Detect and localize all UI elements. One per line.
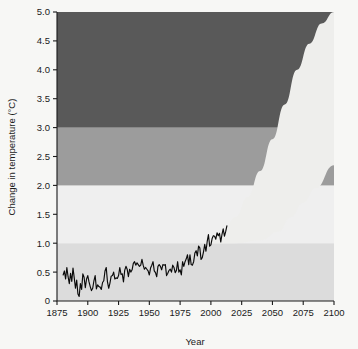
x-tick-label: 2000 — [200, 307, 221, 318]
y-tick-label: 1.0 — [37, 238, 50, 249]
y-tick-label: 5.0 — [37, 6, 50, 17]
x-tick-label: 1950 — [139, 307, 160, 318]
x-tick-label: 1900 — [77, 307, 98, 318]
y-tick-label: 4.5 — [37, 35, 50, 46]
x-axis-title: Year — [185, 336, 204, 347]
climate-projection-chart: 00.51.01.52.02.53.03.54.04.55.0187519001… — [0, 0, 358, 349]
x-tick-label: 1925 — [108, 307, 129, 318]
y-tick-label: 1.5 — [37, 209, 50, 220]
x-tick-label: 2075 — [293, 307, 314, 318]
x-tick-label: 1975 — [170, 307, 191, 318]
x-tick-label: 1875 — [46, 307, 67, 318]
y-tick-label: 2.0 — [37, 180, 50, 191]
x-tick-label: 2100 — [323, 307, 344, 318]
x-tick-label: 2025 — [231, 307, 252, 318]
y-tick-label: 0 — [45, 295, 50, 306]
y-tick-label: 4.0 — [37, 64, 50, 75]
y-tick-label: 3.0 — [37, 122, 50, 133]
chart-canvas: 00.51.01.52.02.53.03.54.04.55.0187519001… — [0, 0, 358, 349]
x-tick-label: 2050 — [262, 307, 283, 318]
y-tick-label: 2.5 — [37, 151, 50, 162]
y-tick-label: 0.5 — [37, 267, 50, 278]
y-axis-title: Change in temperature (°C) — [6, 99, 17, 216]
y-tick-label: 3.5 — [37, 93, 50, 104]
